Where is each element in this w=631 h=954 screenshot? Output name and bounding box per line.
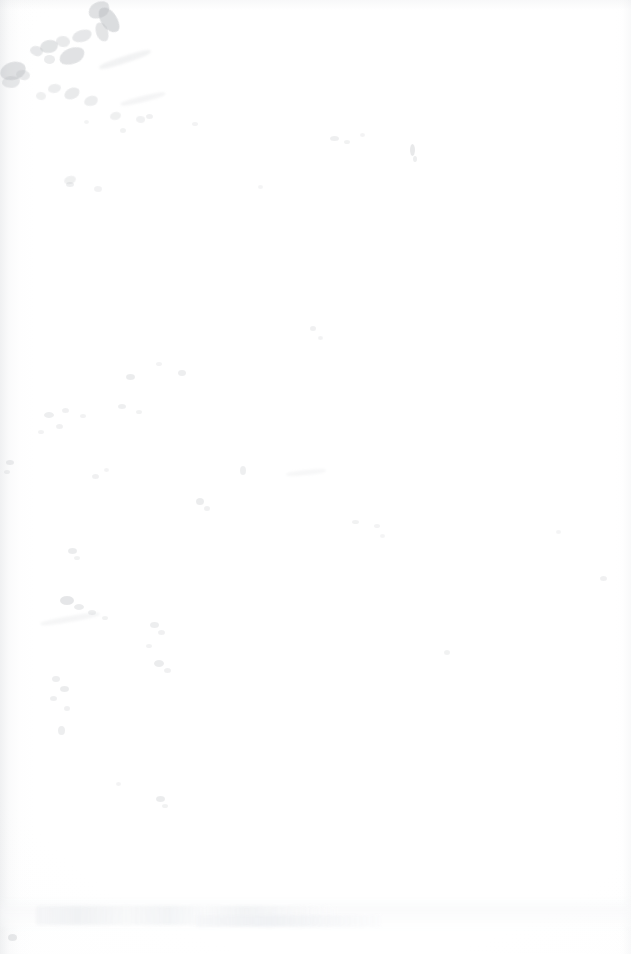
- smudge-streak: [98, 48, 152, 71]
- dust-speck: [60, 596, 74, 605]
- stain-blot: [63, 175, 77, 186]
- dust-speck: [118, 404, 126, 409]
- dust-speck: [156, 362, 162, 366]
- stain-blot: [95, 4, 124, 36]
- stain-blot: [86, 0, 113, 22]
- stain-blot: [62, 85, 81, 102]
- stain-blot: [71, 27, 94, 45]
- dust-speck: [88, 610, 96, 615]
- dust-speck: [204, 506, 210, 511]
- dust-speck: [66, 182, 74, 187]
- stain-blot: [93, 21, 111, 44]
- dust-speck: [116, 782, 121, 786]
- dust-speck: [84, 120, 89, 124]
- dust-speck: [62, 408, 69, 413]
- dust-speck: [8, 934, 17, 941]
- dust-speck: [410, 144, 415, 156]
- dust-speck: [318, 336, 323, 340]
- stain-blot: [94, 186, 102, 192]
- dust-speck: [6, 460, 14, 465]
- stain-blot: [29, 45, 44, 58]
- dust-speck: [600, 576, 607, 581]
- dust-speck: [178, 370, 186, 376]
- dust-speck: [413, 156, 417, 162]
- dust-speck: [74, 604, 84, 610]
- dust-speck: [38, 430, 44, 434]
- smudge-streak: [120, 91, 166, 108]
- dust-speck: [92, 474, 99, 479]
- dust-speck: [4, 470, 10, 474]
- dust-speck: [196, 498, 204, 505]
- show-through-text-band-secondary: [196, 915, 382, 927]
- dust-speck: [192, 122, 198, 126]
- dust-speck: [126, 374, 135, 380]
- dust-speck: [56, 424, 63, 429]
- paper-background: [0, 0, 631, 954]
- dust-speck: [352, 520, 359, 524]
- dust-speck: [158, 630, 165, 635]
- dust-speck: [120, 128, 126, 133]
- dust-speck: [50, 696, 57, 701]
- dust-speck: [80, 414, 86, 418]
- dust-speck: [162, 804, 168, 808]
- dust-speck: [74, 556, 80, 560]
- dust-speck: [64, 706, 70, 711]
- stain-blot: [55, 35, 70, 48]
- stain-blot: [83, 94, 99, 108]
- trim-shading-right: [615, 0, 631, 954]
- stain-blot: [39, 38, 59, 54]
- dust-speck: [258, 185, 263, 189]
- dust-speck: [156, 796, 165, 802]
- dust-speck: [164, 668, 171, 673]
- stain-blot: [47, 83, 61, 94]
- gutter-shading-left: [0, 0, 34, 954]
- smudge-streak-layer: [0, 0, 631, 954]
- stain-cluster-top-left: [0, 0, 210, 230]
- dust-speck: [104, 468, 109, 472]
- dust-speck: [102, 616, 108, 620]
- dust-speck: [360, 133, 365, 137]
- dust-speck: [58, 726, 65, 735]
- dust-speck: [330, 136, 339, 141]
- trim-shading-top: [0, 0, 631, 10]
- dust-speck: [136, 410, 142, 414]
- stain-blot: [136, 116, 145, 124]
- dust-speck: [310, 326, 316, 331]
- dust-speck: [444, 650, 450, 655]
- smudge-streak: [40, 611, 100, 627]
- dust-speck: [374, 524, 380, 528]
- dust-speck: [344, 140, 350, 144]
- dust-speck: [146, 644, 152, 648]
- dust-speck: [240, 466, 246, 475]
- smudge-streak: [286, 468, 326, 477]
- stain-blot: [1, 75, 20, 89]
- dust-speck: [68, 548, 77, 554]
- stain-blot: [15, 69, 31, 81]
- dust-speck: [380, 534, 385, 538]
- stain-blot: [36, 91, 47, 100]
- dust-speck: [146, 114, 153, 119]
- dust-speck: [52, 676, 60, 682]
- dust-speck: [154, 660, 164, 667]
- dust-speck-layer: [0, 0, 631, 954]
- dust-speck: [556, 530, 561, 534]
- scanned-page: Blank page from a document scan. No head…: [0, 0, 631, 954]
- stain-blot: [44, 55, 55, 64]
- dust-speck: [44, 412, 54, 418]
- dust-speck: [150, 622, 159, 628]
- dust-speck: [60, 686, 69, 692]
- stain-blot: [57, 44, 87, 69]
- stain-blot: [0, 59, 28, 83]
- stain-blot: [109, 111, 122, 121]
